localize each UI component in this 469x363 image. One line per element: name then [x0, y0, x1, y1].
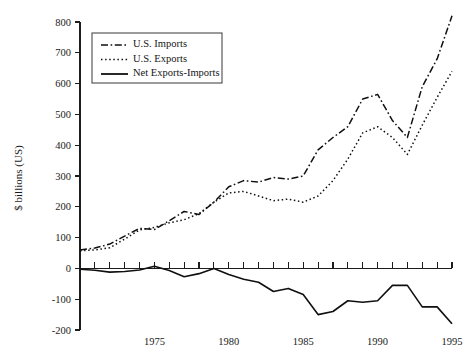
y-axis-title: $ billions (US) [12, 145, 25, 211]
y-tick-label: 800 [55, 17, 71, 28]
y-axis: -200-1000100200300400500600700800 [52, 17, 80, 336]
legend-label: Net Exports-Imports [133, 67, 220, 78]
series-line-dotted [80, 71, 452, 251]
x-tick-label: 1990 [367, 336, 388, 347]
y-tick-label: -200 [52, 325, 71, 336]
y-tick-label: 200 [55, 201, 71, 212]
line-chart: -200-1000100200300400500600700800 197519… [0, 0, 469, 363]
chart-legend: U.S. ImportsU.S. ExportsNet Exports-Impo… [92, 33, 222, 83]
y-tick-label: 500 [55, 109, 71, 120]
series-line-solid [80, 266, 452, 324]
x-axis: 19751980198519901995 [80, 262, 463, 347]
x-tick-label: 1995 [442, 336, 463, 347]
y-tick-label: 300 [55, 171, 71, 182]
y-tick-label: 600 [55, 78, 71, 89]
y-tick-label: 700 [55, 47, 71, 58]
x-tick-label: 1975 [144, 336, 165, 347]
legend-label: U.S. Exports [133, 53, 187, 64]
y-tick-label: 400 [55, 140, 71, 151]
y-tick-label: 0 [66, 263, 71, 274]
x-tick-label: 1985 [293, 336, 314, 347]
y-tick-label: -100 [52, 294, 71, 305]
legend-label: U.S. Imports [133, 38, 187, 49]
chart-container: -200-1000100200300400500600700800 197519… [0, 0, 469, 363]
x-tick-label: 1980 [218, 336, 239, 347]
y-tick-label: 100 [55, 232, 71, 243]
